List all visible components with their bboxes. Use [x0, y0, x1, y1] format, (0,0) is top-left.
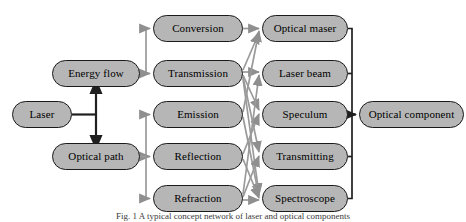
node-emission-label: Emission	[177, 109, 219, 120]
node-energy-flow[interactable]: Energy flow	[52, 60, 140, 87]
node-energy-flow-label: Energy flow	[68, 68, 124, 79]
node-laser-label: Laser	[30, 109, 55, 120]
diagram-canvas: Laser Energy flow Optical path Conversio…	[0, 0, 466, 222]
node-refraction[interactable]: Refraction	[153, 185, 243, 212]
node-speculum[interactable]: Speculum	[262, 101, 348, 128]
node-transmitting[interactable]: Transmitting	[262, 143, 348, 170]
node-reflection[interactable]: Reflection	[153, 143, 243, 170]
node-refraction-label: Refraction	[174, 193, 221, 204]
node-reflection-label: Reflection	[175, 151, 222, 162]
node-spectroscope[interactable]: Spectroscope	[262, 185, 348, 212]
node-laser-beam-label: Laser beam	[279, 68, 331, 79]
node-laser-beam[interactable]: Laser beam	[262, 60, 348, 87]
node-optical-component-label: Optical component	[369, 109, 455, 120]
node-optical-maser[interactable]: Optical maser	[262, 15, 348, 42]
node-conversion-label: Conversion	[172, 23, 224, 34]
node-spectroscope-label: Spectroscope	[275, 193, 335, 204]
node-transmission-label: Transmission	[168, 68, 228, 79]
node-optical-path[interactable]: Optical path	[52, 143, 140, 170]
node-transmitting-label: Transmitting	[276, 151, 334, 162]
node-transmission[interactable]: Transmission	[153, 60, 243, 87]
node-conversion[interactable]: Conversion	[153, 15, 243, 42]
edge-energyflow-conversion	[140, 29, 150, 74]
node-optical-component[interactable]: Optical component	[359, 101, 464, 128]
edge-opticalpath-fanout	[140, 115, 150, 199]
node-emission[interactable]: Emission	[153, 101, 243, 128]
edge-device-bus	[348, 29, 356, 199]
node-optical-path-label: Optical path	[68, 151, 123, 162]
node-laser[interactable]: Laser	[12, 101, 72, 128]
figure-caption: Fig. 1 A typical concept network of lase…	[0, 211, 466, 222]
edge-laser-stem	[72, 80, 96, 149]
node-speculum-label: Speculum	[283, 109, 328, 120]
node-optical-maser-label: Optical maser	[274, 23, 337, 34]
